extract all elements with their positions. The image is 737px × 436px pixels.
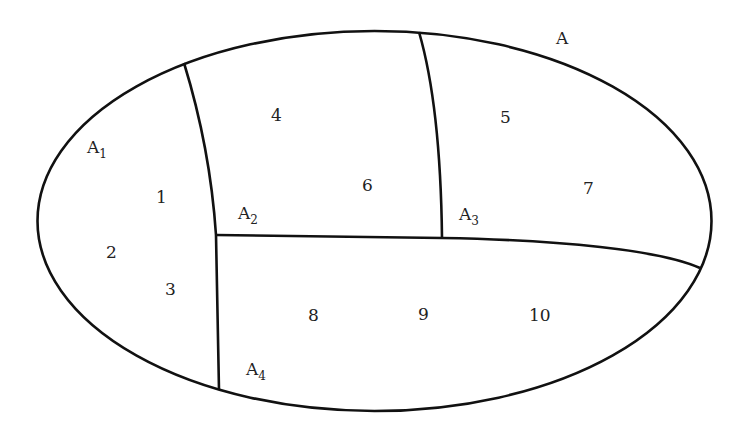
label-A1: A1 xyxy=(87,139,107,156)
number-3: 3 xyxy=(165,281,176,298)
label-A2: A2 xyxy=(238,205,258,222)
number-2: 2 xyxy=(106,244,117,261)
number-6: 6 xyxy=(362,177,373,194)
number-9: 9 xyxy=(418,306,429,323)
label-A2-base: A xyxy=(238,203,250,223)
label-A3-sub: 3 xyxy=(471,214,479,228)
label-A3: A3 xyxy=(459,206,479,223)
number-4: 4 xyxy=(271,107,282,124)
number-10: 10 xyxy=(529,307,551,324)
boundary-A1-left xyxy=(184,63,219,390)
boundary-A3-left xyxy=(419,32,442,238)
label-A3-base: A xyxy=(459,204,471,224)
region-diagram xyxy=(0,0,737,436)
boundary-horizontal xyxy=(216,235,700,268)
label-A1-base: A xyxy=(87,137,99,157)
label-A4: A4 xyxy=(246,361,266,378)
number-7: 7 xyxy=(583,180,594,197)
label-A2-sub: 2 xyxy=(250,213,258,227)
label-A4-base: A xyxy=(246,359,258,379)
number-1: 1 xyxy=(156,189,167,206)
outer-ellipse-A xyxy=(38,31,712,411)
number-5: 5 xyxy=(500,109,511,126)
number-8: 8 xyxy=(308,307,319,324)
label-A4-sub: 4 xyxy=(258,369,266,383)
label-A: A xyxy=(556,30,568,47)
label-A1-sub: 1 xyxy=(99,147,107,161)
